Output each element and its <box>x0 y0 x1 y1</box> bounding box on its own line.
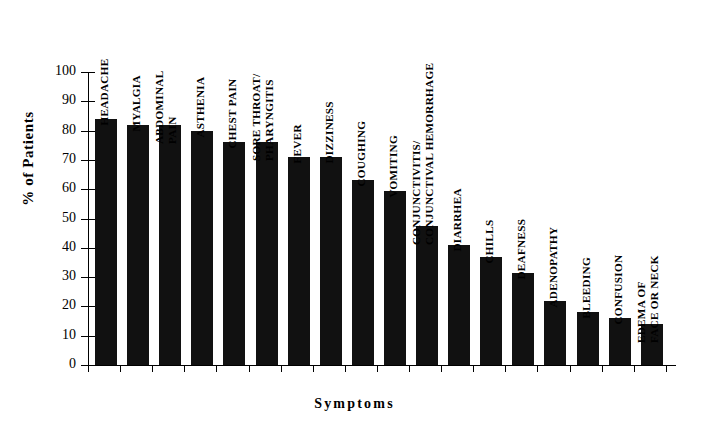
x-category-label: CHILLS <box>484 219 497 263</box>
bar <box>288 157 310 365</box>
x-category-label: SORE THROAT/PHARYNGITIS <box>249 74 274 161</box>
bar <box>352 180 374 365</box>
bar <box>512 273 534 365</box>
x-category-label-line: COUGHING <box>355 121 368 187</box>
x-category-label: BLEEDING <box>580 257 593 318</box>
x-tick-mark <box>249 365 250 372</box>
x-category-label: FEVER <box>291 124 304 163</box>
x-tick-mark <box>505 365 506 372</box>
x-tick-mark <box>473 365 474 372</box>
x-category-label: ABDOMINALPAIN <box>153 70 178 144</box>
bar <box>544 301 566 365</box>
y-axis-title: % of Patients <box>20 79 37 239</box>
x-category-label: DEAFNESS <box>516 218 529 279</box>
bar <box>159 125 181 365</box>
x-category-label-line: ABDOMINAL <box>153 70 166 144</box>
x-category-label: DIZZINESS <box>323 101 336 163</box>
y-tick-mark <box>81 219 95 220</box>
x-category-label: CHEST PAIN <box>227 79 240 149</box>
x-category-label: CONJUNCTIVITIS/CONJUNCTIVAL HEMORRHAGE <box>410 63 435 245</box>
x-tick-mark <box>377 365 378 372</box>
x-category-label-line: DIZZINESS <box>323 101 336 163</box>
x-tick-mark <box>313 365 314 372</box>
x-category-label-line: FEVER <box>291 124 304 163</box>
bar <box>480 257 502 365</box>
bar-chart-figure: % of Patients 0102030405060708090100 HEA… <box>0 0 709 436</box>
bar <box>127 125 149 365</box>
y-tick-label: 30 <box>42 269 76 283</box>
bar <box>191 131 213 365</box>
x-tick-mark <box>345 365 346 372</box>
y-tick-label: 40 <box>42 240 76 254</box>
bar <box>223 142 245 365</box>
x-category-label: EDEMA OFFACE OR NECK <box>635 255 660 343</box>
x-tick-mark <box>602 365 603 372</box>
x-tick-mark <box>570 365 571 372</box>
bar <box>416 226 438 365</box>
y-tick-mark <box>81 131 95 132</box>
y-tick-label: 80 <box>42 123 76 137</box>
x-tick-mark <box>409 365 410 372</box>
y-tick-mark <box>81 336 95 337</box>
x-category-label-line: CHEST PAIN <box>227 79 240 149</box>
y-tick-label: 70 <box>42 152 76 166</box>
y-tick-label: 10 <box>42 328 76 342</box>
x-category-label-line: ASTHENIA <box>195 76 208 137</box>
x-tick-mark <box>216 365 217 372</box>
x-category-label: ASTHENIA <box>195 76 208 137</box>
x-category-label-line: BLEEDING <box>580 257 593 318</box>
y-tick-mark <box>81 248 95 249</box>
x-category-label: MYALGIA <box>131 75 144 131</box>
x-category-label-line: CHILLS <box>484 219 497 263</box>
bar <box>320 157 342 365</box>
x-tick-mark <box>152 365 153 372</box>
bar <box>448 245 470 365</box>
x-axis-line <box>88 365 676 366</box>
y-tick-label: 60 <box>42 181 76 195</box>
x-category-label-line: DIARRHEA <box>452 188 465 251</box>
bar <box>577 312 599 365</box>
y-tick-label: 100 <box>42 64 76 78</box>
x-tick-mark <box>281 365 282 372</box>
x-category-label-line: MYALGIA <box>131 75 144 131</box>
bar <box>256 142 278 365</box>
x-category-label-line: HEADACHE <box>98 58 111 125</box>
y-tick-mark <box>81 101 95 102</box>
x-category-label-line: CONJUNCTIVITIS/ <box>410 63 423 245</box>
x-category-label-line: CONFUSION <box>612 255 625 325</box>
x-tick-mark <box>537 365 538 372</box>
x-category-label-line: PHARYNGITIS <box>262 74 275 161</box>
bar <box>609 318 631 365</box>
y-tick-mark <box>81 306 95 307</box>
x-category-label-line: CONJUNCTIVAL HEMORRHAGE <box>422 63 435 245</box>
x-category-label-line: PAIN <box>166 70 179 144</box>
x-tick-mark <box>634 365 635 372</box>
x-category-label: ADENOPATHY <box>548 226 561 307</box>
y-tick-mark <box>81 72 95 73</box>
x-category-label: DIARRHEA <box>452 188 465 251</box>
x-category-label: COUGHING <box>355 121 368 187</box>
x-category-label-line: VOMITING <box>387 135 400 197</box>
x-category-label-line: ADENOPATHY <box>548 226 561 307</box>
x-category-label: HEADACHE <box>98 58 111 125</box>
x-tick-mark <box>184 365 185 372</box>
y-tick-mark <box>81 160 95 161</box>
x-category-label-line: FACE OR NECK <box>647 255 660 343</box>
x-category-label-line: SORE THROAT/ <box>249 74 262 161</box>
x-category-label: VOMITING <box>387 135 400 197</box>
y-tick-mark <box>81 277 95 278</box>
x-category-label: CONFUSION <box>612 255 625 325</box>
y-tick-label: 50 <box>42 211 76 225</box>
y-tick-label: 20 <box>42 298 76 312</box>
x-tick-mark <box>88 365 89 372</box>
x-category-label-line: DEAFNESS <box>516 218 529 279</box>
x-tick-mark <box>441 365 442 372</box>
x-axis-title: Symptoms <box>0 396 709 412</box>
y-tick-label: 90 <box>42 93 76 107</box>
bar <box>95 119 117 365</box>
y-tick-label: 0 <box>42 357 76 371</box>
x-tick-mark <box>666 365 667 372</box>
y-tick-mark <box>81 189 95 190</box>
bar <box>384 191 406 365</box>
x-tick-mark <box>120 365 121 372</box>
